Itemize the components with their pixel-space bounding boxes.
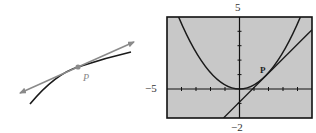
y-max-label: 5 (235, 2, 241, 13)
y-min-label: −2 (231, 122, 243, 133)
x-min-label: −5 (145, 83, 157, 94)
point-p-label: P (260, 66, 266, 75)
calculator-graph (0, 0, 316, 133)
